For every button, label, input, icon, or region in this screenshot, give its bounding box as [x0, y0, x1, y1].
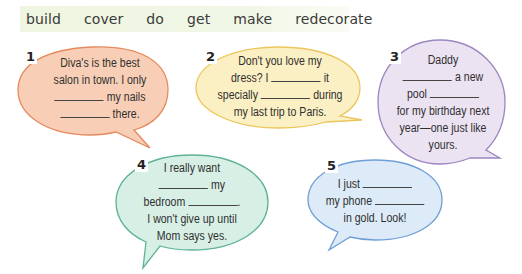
bubble-2-line: Don't you love my — [210, 53, 351, 70]
bubble-5-line: my phone — [318, 193, 432, 210]
bubble-3-line: yours. — [390, 137, 496, 154]
bubble-1-line-text: my nails — [104, 90, 146, 104]
bubble-3-line: for my birthday next — [390, 103, 496, 120]
answer-blank[interactable] — [375, 193, 424, 205]
answer-blank[interactable] — [363, 176, 412, 188]
bubble-1-line: there. — [38, 106, 161, 123]
bubble-1-line: Diva's is the best — [38, 55, 161, 72]
bubble-4-line: I won't give up until — [130, 211, 253, 228]
bubble-2-line-text: during — [310, 88, 342, 102]
bubble-5-number: 5 — [325, 159, 338, 173]
bubble-4-text: I really want my bedroom . I won't give … — [130, 160, 253, 245]
bubble-4-line-text: bedroom — [144, 195, 189, 209]
bubble-1-number: 1 — [24, 50, 37, 64]
bubble-2-line-text: specially — [217, 88, 260, 102]
answer-blank[interactable] — [261, 87, 310, 99]
bubble-4-line: my — [130, 177, 253, 194]
bubble-4-line: bedroom . — [130, 194, 253, 211]
answer-blank[interactable] — [403, 69, 452, 81]
answer-blank[interactable] — [188, 194, 237, 206]
bubble-3-line: pool — [390, 86, 496, 103]
bubble-2-line: my last trip to Paris. — [210, 104, 351, 121]
bubble-4-line-text: . — [237, 195, 240, 209]
bubble-3-text: Daddy a new pool for my birthday next ye… — [390, 52, 496, 154]
bubble-1-text: Diva's is the best salon in town. I only… — [38, 55, 161, 123]
answer-blank[interactable] — [430, 86, 479, 98]
bubble-4-line: I really want — [130, 160, 253, 177]
bubble-3-line-text: pool — [407, 87, 430, 101]
bubble-5-text: I just my phone in gold. Look! — [318, 176, 432, 227]
bubble-4-line-text: my — [208, 178, 225, 192]
bubble-2-line-text: it — [321, 71, 329, 85]
bubble-2-line: dress? I it — [210, 70, 351, 87]
answer-blank[interactable] — [55, 89, 104, 101]
bubble-5-line-text: I just — [338, 177, 363, 191]
bubble-3-line: Daddy — [390, 52, 496, 69]
bubble-1-line: my nails — [38, 89, 161, 106]
bubble-5-line-text: my phone — [326, 194, 375, 208]
answer-blank[interactable] — [159, 177, 208, 189]
bubble-5-line: in gold. Look! — [318, 210, 432, 227]
bubble-2-line-text: dress? I — [231, 71, 272, 85]
bubble-5-line: I just — [318, 176, 432, 193]
answer-blank[interactable] — [60, 106, 109, 118]
bubble-3-line: year—one just like — [390, 120, 496, 137]
bubble-3-line-text: a new — [452, 70, 483, 84]
bubble-2-text: Don't you love my dress? I it specially … — [210, 53, 351, 121]
bubble-4-line: Mom says yes. — [130, 228, 253, 245]
bubble-3-line: a new — [390, 69, 496, 86]
bubble-2-line: specially during — [210, 87, 351, 104]
bubble-1-line-text: there. — [110, 107, 140, 121]
answer-blank[interactable] — [272, 70, 321, 82]
bubble-1-line: salon in town. I only — [38, 72, 161, 89]
